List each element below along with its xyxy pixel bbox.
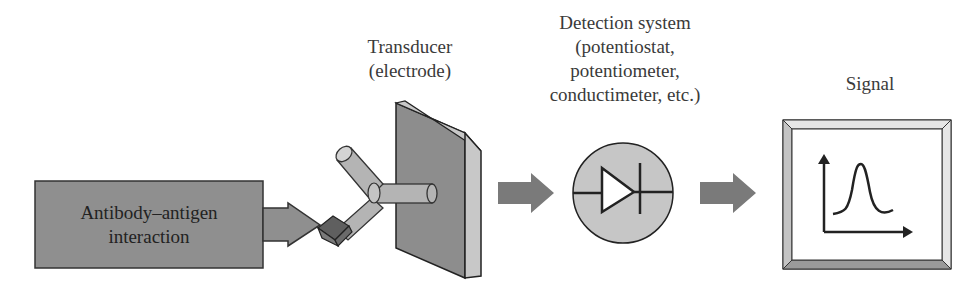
signal-line-1: Signal — [820, 72, 920, 96]
antibody-antigen-label: Antibody–antigen interaction — [35, 201, 263, 249]
signal-label: Signal — [820, 72, 920, 96]
arrow-icon — [498, 173, 554, 213]
transducer-line-2: (electrode) — [340, 59, 480, 83]
arrow-icon — [263, 203, 320, 246]
detection-line-3: potentiometer, — [530, 59, 720, 83]
peak-graph-icon — [783, 120, 951, 269]
arrow-icon — [700, 173, 756, 213]
detection-line-4: conductimeter, etc.) — [530, 83, 720, 107]
diode-circle-icon — [573, 143, 673, 243]
transducer-label: Transducer (electrode) — [340, 35, 480, 83]
detection-system-label: Detection system (potentiostat, potentio… — [530, 11, 720, 107]
transducer-line-1: Transducer — [340, 35, 480, 59]
antibody-antigen-line-2: interaction — [35, 225, 263, 249]
detection-line-2: (potentiostat, — [530, 35, 720, 59]
antibody-antigen-line-1: Antibody–antigen — [35, 201, 263, 225]
detection-line-1: Detection system — [530, 11, 720, 35]
